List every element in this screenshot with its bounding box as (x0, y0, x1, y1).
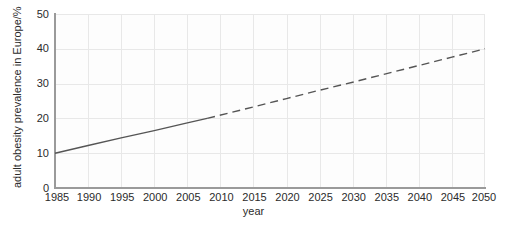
y-tick-label: 50 (0, 9, 49, 20)
y-axis-title: adult obesity prevalence in Europe/% (11, 8, 23, 188)
x-axis-line (54, 187, 486, 189)
gridline-vertical (187, 14, 188, 188)
y-tick-50: 50 (0, 9, 49, 20)
x-tick-label: 2000 (143, 191, 167, 203)
gridline-horizontal (55, 14, 485, 15)
gridline-horizontal (55, 49, 485, 50)
y-tick-30: 30 (0, 78, 49, 89)
x-tick-label: 1985 (45, 191, 69, 203)
x-tick-label: 2050 (472, 191, 496, 203)
plot-area (55, 14, 485, 188)
gridline-vertical (220, 14, 221, 188)
x-axis-title: year (0, 205, 507, 217)
gridline-vertical (253, 14, 254, 188)
y-tick-40: 40 (0, 43, 49, 54)
gridline-horizontal (55, 84, 485, 85)
x-tick-label: 2045 (441, 191, 465, 203)
y-tick-label: 40 (0, 43, 49, 54)
x-tick-label: 1995 (110, 191, 134, 203)
gridline-vertical (419, 14, 420, 188)
x-tick-label: 2020 (275, 191, 299, 203)
x-tick-label: 2015 (242, 191, 266, 203)
gridline-vertical (88, 14, 89, 188)
gridline-vertical (121, 14, 122, 188)
gridline-vertical (452, 14, 453, 188)
y-tick-10: 10 (0, 148, 49, 159)
x-tick-label: 2005 (176, 191, 200, 203)
gridline-vertical (320, 14, 321, 188)
gridline-horizontal (55, 153, 485, 154)
gridline-vertical (386, 14, 387, 188)
gridline-vertical (484, 14, 485, 188)
y-axis-line (54, 13, 56, 189)
x-tick-label: 2040 (408, 191, 432, 203)
gridline-vertical (353, 14, 354, 188)
x-tick-label: 2010 (209, 191, 233, 203)
gridline-vertical (154, 14, 155, 188)
gridline-vertical (287, 14, 288, 188)
x-tick-label: 2025 (308, 191, 332, 203)
y-tick-20: 20 (0, 113, 49, 124)
line-chart-figure: 50 40 30 20 10 0 1985 1990 1995 2000 200… (0, 0, 507, 228)
x-tick-label: 2035 (375, 191, 399, 203)
y-tick-label: 30 (0, 78, 49, 89)
x-tick-label: 2030 (341, 191, 365, 203)
y-tick-0: 0 (0, 183, 49, 194)
y-tick-label: 20 (0, 113, 49, 124)
x-tick-label: 1990 (77, 191, 101, 203)
screenshot-root: 50 40 30 20 10 0 1985 1990 1995 2000 200… (0, 0, 507, 228)
gridline-horizontal (55, 118, 485, 119)
y-tick-label: 10 (0, 148, 49, 159)
y-tick-label: 0 (0, 183, 49, 194)
